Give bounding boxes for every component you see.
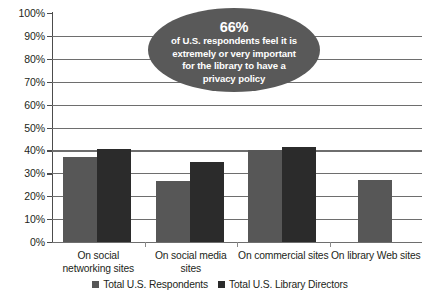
bar <box>358 180 392 242</box>
bar <box>63 157 97 242</box>
bar <box>156 181 190 242</box>
y-axis-tick-label: 100% <box>19 7 45 19</box>
y-axis-tick-label: 50% <box>24 122 45 134</box>
y-axis-tick <box>47 242 52 243</box>
privacy-policy-callout: 66% of U.S. respondents feel it is extre… <box>148 8 320 92</box>
x-axis-tick <box>330 242 331 247</box>
y-axis-tick-label: 30% <box>24 167 45 179</box>
bar <box>248 150 282 242</box>
y-axis-tick-label: 0% <box>30 236 45 248</box>
x-axis-category-label: On social networking sites <box>52 249 145 275</box>
y-axis-tick-label: 20% <box>24 190 45 202</box>
bar <box>282 147 316 242</box>
legend-label-library-directors: Total U.S. Library Directors <box>229 279 348 290</box>
x-axis-tick <box>145 242 146 247</box>
bar-group <box>52 13 145 242</box>
y-axis-tick-label: 90% <box>24 30 45 42</box>
bar <box>190 162 224 242</box>
callout-headline: 66% <box>148 19 320 35</box>
y-axis-tick-label: 70% <box>24 76 45 88</box>
bar-group <box>330 13 423 242</box>
y-axis-tick-label: 80% <box>24 53 45 65</box>
callout-line-3: for the library to have a <box>148 60 320 73</box>
legend-swatch-respondents <box>92 281 99 288</box>
x-axis-category-label: On social media sites <box>145 249 238 275</box>
x-axis-category-label: On library Web sites <box>330 249 423 262</box>
legend-label-respondents: Total U.S. Respondents <box>103 279 208 290</box>
callout-line-1: of U.S. respondents feel it is <box>148 35 320 48</box>
bar <box>97 149 131 242</box>
callout-line-4: privacy policy <box>148 73 320 86</box>
legend-item-library-directors: Total U.S. Library Directors <box>218 279 348 290</box>
y-axis-tick-label: 40% <box>24 144 45 156</box>
bar-chart: 100%90%80%70%60%50%40%30%20%10%0% On soc… <box>0 0 440 295</box>
y-axis-tick-label: 60% <box>24 99 45 111</box>
legend-swatch-library-directors <box>218 281 225 288</box>
y-axis-tick-label: 10% <box>24 213 45 225</box>
callout-line-2: extremely or very important <box>148 48 320 61</box>
legend-item-respondents: Total U.S. Respondents <box>92 279 208 290</box>
x-axis-category-label: On commercial sites <box>237 249 330 262</box>
chart-legend: Total U.S. Respondents Total U.S. Librar… <box>0 279 440 290</box>
x-axis-tick <box>237 242 238 247</box>
